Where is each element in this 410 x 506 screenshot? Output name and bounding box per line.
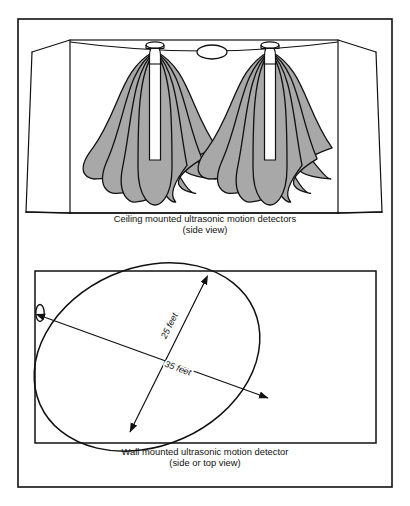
detector-cap bbox=[261, 42, 279, 48]
wall-panel-caption-line-1: Wall mounted ultrasonic motion detector bbox=[122, 446, 289, 457]
figure-background bbox=[0, 0, 410, 506]
detector-cap bbox=[146, 42, 164, 48]
figure-root: Ceiling mounted ultrasonic motion detect… bbox=[0, 0, 410, 506]
center-overlap-ellipse bbox=[197, 45, 227, 59]
detector-body bbox=[265, 48, 276, 160]
ceiling-panel-caption-line-2: (side view) bbox=[183, 224, 228, 235]
wall-mounted-detector bbox=[36, 305, 44, 322]
wall-panel-caption-line-2: (side or top view) bbox=[169, 457, 240, 468]
ceiling-panel-caption-line-1: Ceiling mounted ultrasonic motion detect… bbox=[114, 213, 297, 224]
detector-body bbox=[150, 48, 161, 160]
ultrasonic-coverage-figure: Ceiling mounted ultrasonic motion detect… bbox=[0, 0, 410, 506]
